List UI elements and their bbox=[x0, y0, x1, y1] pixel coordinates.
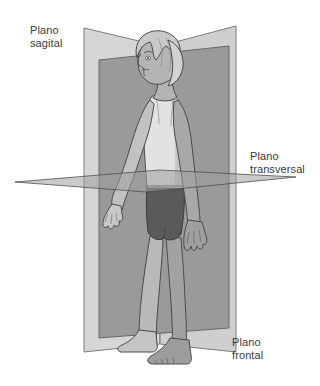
label-plano-transversal: Plano transversal bbox=[250, 150, 305, 176]
anatomical-planes-diagram bbox=[0, 0, 320, 386]
label-plano-frontal: Plano frontal bbox=[232, 336, 263, 362]
label-plano-sagital: Plano sagital bbox=[30, 24, 63, 50]
